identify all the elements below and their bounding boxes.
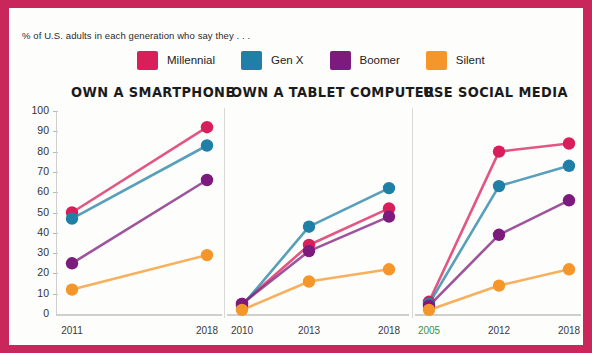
y-axis-label: 20 <box>23 266 49 278</box>
y-axis-label: 80 <box>23 145 49 157</box>
x-axis-label: 2005 <box>409 325 449 336</box>
data-point-millennial <box>201 121 213 133</box>
chart-subtitle: % of U.S. adults in each generation who … <box>22 30 250 41</box>
data-point-boomer <box>383 210 395 222</box>
data-point-gen-x <box>563 160 575 172</box>
series-line-millennial <box>72 127 207 212</box>
y-axis-label: 70 <box>23 165 49 177</box>
data-point-gen-x <box>423 298 435 310</box>
data-point-gen-x <box>66 212 78 224</box>
data-point-boomer <box>563 194 575 206</box>
panel-divider-1 <box>224 108 225 318</box>
y-axis-label: 100 <box>23 104 49 116</box>
y-axis-label: 30 <box>23 246 49 258</box>
data-point-boomer <box>236 298 248 310</box>
legend-swatch-icon <box>330 51 351 70</box>
series-line-boomer <box>429 200 569 306</box>
legend-label: Silent <box>456 54 485 66</box>
data-point-silent <box>66 283 78 295</box>
y-axis-label: 0 <box>23 307 49 319</box>
x-axis-label: 2013 <box>289 325 329 336</box>
legend-swatch-icon <box>241 51 262 70</box>
data-point-boomer <box>201 174 213 186</box>
series-line-silent <box>242 269 389 310</box>
series-line-boomer <box>72 180 207 263</box>
series-line-silent <box>429 269 569 310</box>
series-line-gen-x <box>429 166 569 304</box>
y-axis-label: 50 <box>23 206 49 218</box>
y-axis-line <box>56 111 57 315</box>
data-point-millennial <box>383 202 395 214</box>
series-line-boomer <box>242 217 389 304</box>
data-point-millennial <box>423 296 435 308</box>
x-axis-label: 2012 <box>479 325 519 336</box>
legend-label: Gen X <box>271 54 304 66</box>
y-axis-label: 10 <box>23 287 49 299</box>
legend-item-silent[interactable]: Silent <box>426 51 485 70</box>
baseline-panel-2 <box>227 314 409 316</box>
panel-title-smartphone: OWN A SMARTPHONE <box>71 84 235 101</box>
legend-item-millennial[interactable]: Millennial <box>137 51 215 70</box>
x-axis-label: 2018 <box>549 325 589 336</box>
data-point-millennial <box>66 206 78 218</box>
baseline-panel-3 <box>415 314 581 316</box>
baseline-panel-1 <box>56 314 222 316</box>
series-line-gen-x <box>242 188 389 306</box>
data-point-millennial <box>563 137 575 149</box>
data-point-gen-x <box>201 139 213 151</box>
data-point-millennial <box>493 145 505 157</box>
x-axis-label: 2018 <box>369 325 409 336</box>
data-point-gen-x <box>236 300 248 312</box>
data-point-boomer <box>493 229 505 241</box>
y-axis-label: 40 <box>23 226 49 238</box>
series-line-gen-x <box>72 146 207 219</box>
data-point-gen-x <box>303 221 315 233</box>
legend-swatch-icon <box>137 51 158 70</box>
legend-label: Millennial <box>167 54 215 66</box>
data-point-millennial <box>236 298 248 310</box>
chart-legend: MillennialGen XBoomerSilent <box>137 49 511 71</box>
legend-label: Boomer <box>360 54 400 66</box>
panel-title-tablet: OWN A TABLET COMPUTER <box>231 84 435 101</box>
x-axis-label: 2010 <box>222 325 262 336</box>
data-point-silent <box>563 263 575 275</box>
data-point-silent <box>383 263 395 275</box>
series-line-millennial <box>429 144 569 302</box>
legend-item-gen-x[interactable]: Gen X <box>241 51 304 70</box>
data-point-silent <box>201 249 213 261</box>
chart-card: % of U.S. adults in each generation who … <box>9 8 583 345</box>
panel-divider-2 <box>412 108 413 318</box>
data-point-boomer <box>66 257 78 269</box>
legend-swatch-icon <box>426 51 447 70</box>
panel-title-social-media: USE SOCIAL MEDIA <box>423 84 568 101</box>
data-point-silent <box>493 279 505 291</box>
y-axis-label: 90 <box>23 124 49 136</box>
series-line-silent <box>72 255 207 290</box>
data-point-silent <box>303 275 315 287</box>
legend-item-boomer[interactable]: Boomer <box>330 51 400 70</box>
data-point-boomer <box>303 245 315 257</box>
y-axis-label: 60 <box>23 185 49 197</box>
data-point-millennial <box>303 239 315 251</box>
data-point-gen-x <box>493 180 505 192</box>
x-axis-label: 2011 <box>52 325 92 336</box>
data-point-boomer <box>423 300 435 312</box>
x-axis-label: 2018 <box>187 325 227 336</box>
series-line-millennial <box>242 208 389 304</box>
data-point-gen-x <box>383 182 395 194</box>
